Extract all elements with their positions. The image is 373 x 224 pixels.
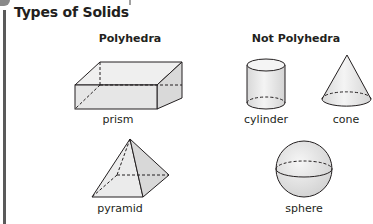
label-pyramid: pyramid: [97, 202, 143, 215]
label-cylinder: cylinder: [244, 113, 288, 126]
prism-icon: [75, 62, 182, 109]
label-prism: prism: [102, 113, 133, 126]
label-sphere: sphere: [285, 202, 323, 215]
sphere-icon: [276, 141, 332, 197]
label-cone: cone: [333, 113, 360, 126]
solids-illustration: [0, 0, 373, 224]
cylinder-icon: [247, 59, 285, 109]
pyramid-icon: [92, 139, 169, 197]
cone-icon: [322, 55, 371, 106]
